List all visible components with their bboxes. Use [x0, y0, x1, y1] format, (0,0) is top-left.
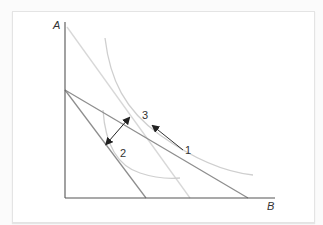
budget-line-2 [65, 90, 146, 198]
point-label-2: 2 [120, 147, 126, 159]
light-budget-line [67, 27, 190, 198]
y-axis-label: A [53, 19, 60, 31]
point-label-3: 3 [142, 109, 148, 121]
diagram-canvas [0, 0, 323, 225]
budget-line-1 [65, 90, 248, 198]
upper-indifference-curve [105, 38, 253, 175]
arrow-icon [153, 126, 183, 150]
point-label-1: 1 [185, 144, 191, 156]
x-axis-label: B [267, 200, 274, 212]
